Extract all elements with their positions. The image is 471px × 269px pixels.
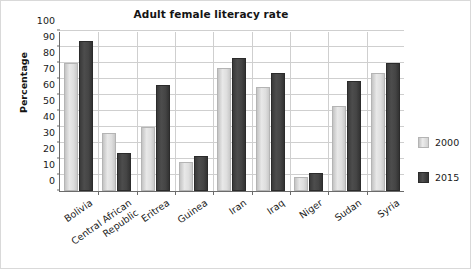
x-axis-label-iraq: Iraq [265, 197, 287, 217]
y-tick-label-10: 10 [43, 159, 55, 170]
bar-iran-2015[interactable] [232, 58, 246, 191]
plot-area: 0102030405060708090100 BoliviaCentral Af… [59, 32, 404, 192]
y-tick-mark-100 [57, 30, 61, 31]
bar-sudan-2000[interactable] [332, 106, 346, 191]
bar-syria-2015[interactable] [386, 63, 400, 191]
gridline-100 [60, 30, 404, 31]
bar-bolivia-2000[interactable] [64, 63, 78, 191]
x-axis-label-iran: Iran [226, 197, 248, 217]
bar-eritrea-2015[interactable] [156, 85, 170, 191]
x-tick-mark-6 [290, 191, 291, 195]
y-tick-label-20: 20 [43, 143, 55, 154]
x-axis-label-guinea: Guinea [176, 197, 210, 226]
bar-group [175, 32, 213, 191]
x-tick-mark-3 [175, 191, 176, 195]
chart-title: Adult female literacy rate [1, 8, 421, 20]
chart-figure: Adult female literacy rate Percentage 01… [0, 0, 471, 269]
bar-syria-2000[interactable] [371, 73, 385, 191]
bar-niger-2015[interactable] [309, 173, 323, 191]
legend-label-2000: 2000 [435, 137, 459, 148]
x-tick-mark-5 [252, 191, 253, 195]
legend-swatch-2000 [418, 137, 429, 148]
x-axis-label-syria: Syria [375, 197, 401, 220]
legend-item-2015[interactable]: 2015 [418, 169, 471, 186]
bar-group [290, 32, 328, 191]
y-tick-label-100: 100 [37, 15, 55, 26]
legend-swatch-2015 [418, 172, 429, 183]
chart-legend: 20002015 [418, 134, 471, 204]
bar-group [60, 32, 98, 191]
bar-group [252, 32, 290, 191]
y-tick-label-50: 50 [43, 95, 55, 106]
x-axis-label-niger: Niger [297, 197, 325, 221]
bar-iraq-2000[interactable] [256, 87, 270, 191]
bar-group [367, 32, 405, 191]
bar-niger-2000[interactable] [294, 177, 308, 191]
bar-group [98, 32, 136, 191]
y-tick-label-30: 30 [43, 127, 55, 138]
bar-sudan-2015[interactable] [347, 81, 361, 191]
bar-central-african-republic-2015[interactable] [117, 153, 131, 191]
y-tick-label-90: 90 [43, 31, 55, 42]
x-axis-label-sudan: Sudan [332, 197, 363, 224]
bar-group [213, 32, 251, 191]
bar-iraq-2015[interactable] [271, 73, 285, 191]
bar-guinea-2015[interactable] [194, 156, 208, 191]
legend-label-2015: 2015 [435, 172, 459, 183]
legend-item-2000[interactable]: 2000 [418, 134, 471, 151]
y-tick-label-0: 0 [49, 175, 55, 186]
bar-iran-2000[interactable] [217, 68, 231, 191]
x-tick-mark-2 [137, 191, 138, 195]
x-tick-mark-8 [367, 191, 368, 195]
x-tick-mark-7 [328, 191, 329, 195]
x-axis-label-eritrea: Eritrea [139, 197, 172, 225]
bar-group [137, 32, 175, 191]
y-axis-title: Percentage [18, 38, 29, 128]
y-tick-label-40: 40 [43, 111, 55, 122]
bar-eritrea-2000[interactable] [141, 127, 155, 191]
y-tick-label-60: 60 [43, 79, 55, 90]
x-tick-mark-1 [98, 191, 99, 195]
bar-central-african-republic-2000[interactable] [102, 133, 116, 191]
x-tick-mark-4 [213, 191, 214, 195]
bar-bolivia-2015[interactable] [79, 41, 93, 191]
x-axis-label-bolivia: Bolivia [62, 197, 95, 225]
bar-group [328, 32, 366, 191]
y-tick-label-70: 70 [43, 63, 55, 74]
y-tick-label-80: 80 [43, 47, 55, 58]
bar-guinea-2000[interactable] [179, 162, 193, 191]
